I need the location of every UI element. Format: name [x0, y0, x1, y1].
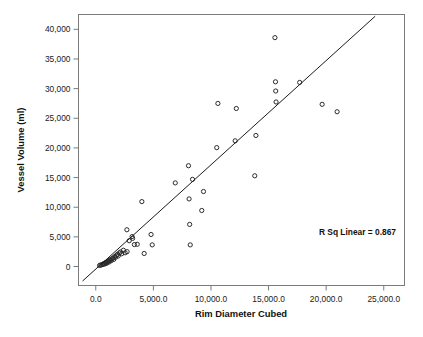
regression-line — [83, 16, 376, 281]
data-point — [273, 36, 277, 40]
data-point — [215, 146, 219, 150]
x-tick-label: 15,000.0 — [252, 294, 285, 304]
data-point — [201, 189, 205, 193]
r-squared-annotation: R Sq Linear = 0.867 — [319, 227, 396, 237]
data-point — [140, 199, 144, 203]
plot-frame — [79, 15, 405, 286]
data-point — [320, 102, 324, 106]
y-tick-label: 25,000 — [45, 113, 71, 123]
data-point — [125, 228, 129, 232]
data-point — [254, 133, 258, 137]
data-point — [335, 110, 339, 114]
y-tick-label: 5,000 — [50, 232, 71, 242]
x-tick-label: 0.0 — [90, 294, 102, 304]
data-point — [273, 80, 277, 84]
data-point — [150, 243, 154, 247]
data-point — [186, 164, 190, 168]
data-point — [188, 243, 192, 247]
plot-canvas: 05,00010,00015,00020,00025,00030,00035,0… — [0, 0, 423, 337]
data-point — [149, 232, 153, 236]
y-tick-label: 30,000 — [45, 84, 71, 94]
y-tick-label: 15,000 — [45, 173, 71, 183]
y-tick-label: 10,000 — [45, 202, 71, 212]
data-point — [200, 208, 204, 212]
regression-line-layer — [83, 16, 376, 281]
x-tick-label: 5,000.0 — [139, 294, 167, 304]
scatter-plot-figure: 05,00010,00015,00020,00025,00030,00035,0… — [0, 0, 423, 337]
data-point — [234, 106, 238, 110]
x-tick-label: 10,000.0 — [195, 294, 228, 304]
x-tick-label: 20,000.0 — [310, 294, 343, 304]
data-points-layer — [97, 36, 339, 268]
data-point — [188, 222, 192, 226]
x-axis-title: Rim Diameter Cubed — [195, 308, 287, 319]
data-point — [253, 174, 257, 178]
x-axis-ticks: 0.05,000.010,000.015,000.020,000.025,000… — [90, 286, 400, 304]
data-point — [274, 100, 278, 104]
y-tick-label: 0 — [66, 262, 71, 272]
data-point — [187, 197, 191, 201]
data-point — [135, 242, 139, 246]
x-tick-label: 25,000.0 — [367, 294, 400, 304]
data-point — [274, 89, 278, 93]
y-tick-label: 40,000 — [45, 24, 71, 34]
data-point — [142, 251, 146, 255]
data-point — [216, 101, 220, 105]
data-point — [173, 181, 177, 185]
y-tick-label: 20,000 — [45, 143, 71, 153]
y-axis-ticks: 05,00010,00015,00020,00025,00030,00035,0… — [45, 24, 79, 271]
y-tick-label: 35,000 — [45, 54, 71, 64]
y-axis-title: Vessel Volume (ml) — [15, 108, 26, 193]
